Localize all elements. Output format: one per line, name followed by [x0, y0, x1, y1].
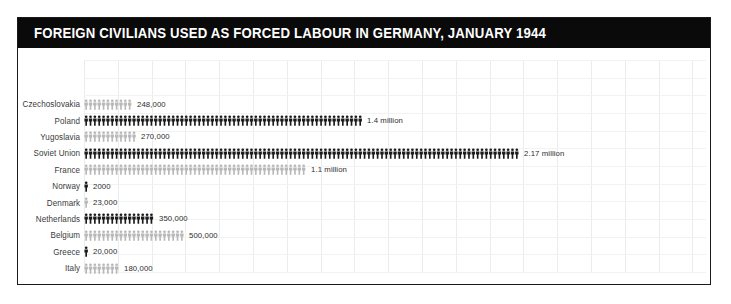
pictogram-bar	[84, 246, 88, 257]
pictogram-bar	[84, 197, 88, 208]
row-value-norway: 2000	[93, 182, 111, 191]
chart-row: Yugoslavia270,000	[18, 129, 710, 145]
row-label-belgium: Belgium	[21, 230, 84, 240]
bar-container: 2000	[84, 178, 710, 194]
chart-row: Netherlands350,000	[18, 211, 710, 227]
chart-row: Czechoslovakia248,000	[18, 96, 710, 112]
chart-plot-area: Czechoslovakia248,000Poland1.4 millionYu…	[18, 48, 710, 284]
pictogram-bar	[84, 181, 88, 192]
pictogram-bar	[84, 230, 184, 241]
gridline-horizontal	[84, 78, 706, 79]
row-value-yugoslavia: 270,000	[141, 132, 170, 141]
pictogram-bar	[84, 131, 136, 142]
chart-row: Poland1.4 million	[18, 112, 710, 128]
bar-container: 20,000	[84, 244, 710, 260]
chart-header: FOREIGN CIVILIANS USED AS FORCED LABOUR …	[18, 18, 710, 48]
chart-row: Soviet Union2.17 million	[18, 145, 710, 161]
row-value-netherlands: 350,000	[159, 214, 188, 223]
pictogram-bar	[84, 213, 154, 224]
bar-container: 23,000	[84, 194, 710, 210]
bar-container: 1.1 million	[84, 162, 710, 178]
chart-title: FOREIGN CIVILIANS USED AS FORCED LABOUR …	[34, 18, 546, 48]
row-label-greece: Greece	[21, 247, 84, 257]
row-value-soviet-union: 2.17 million	[524, 149, 564, 158]
row-value-belgium: 500,000	[189, 231, 218, 240]
gridline-horizontal	[84, 60, 706, 61]
row-label-italy: Italy	[21, 263, 84, 273]
row-value-czechoslovakia: 248,000	[137, 100, 166, 109]
chart-row: Denmark23,000	[18, 194, 710, 210]
row-label-norway: Norway	[21, 181, 84, 191]
row-label-france: France	[21, 165, 84, 175]
chart-frame: FOREIGN CIVILIANS USED AS FORCED LABOUR …	[17, 17, 711, 285]
row-value-denmark: 23,000	[93, 198, 117, 207]
pictogram-bar	[84, 99, 132, 110]
row-value-italy: 180,000	[124, 264, 153, 273]
row-label-poland: Poland	[21, 116, 84, 126]
pictogram-bar	[84, 164, 306, 175]
bar-container: 2.17 million	[84, 145, 710, 161]
row-value-greece: 20,000	[93, 247, 117, 256]
row-value-poland: 1.4 million	[367, 116, 403, 125]
bar-container: 248,000	[84, 96, 710, 112]
row-value-france: 1.1 million	[311, 165, 347, 174]
bar-container: 180,000	[84, 260, 710, 276]
bar-container: 1.4 million	[84, 112, 710, 128]
row-label-netherlands: Netherlands	[21, 214, 84, 224]
row-label-denmark: Denmark	[21, 198, 84, 208]
bar-container: 270,000	[84, 129, 710, 145]
pictogram-bar	[84, 148, 519, 159]
bar-rows: Czechoslovakia248,000Poland1.4 millionYu…	[18, 96, 710, 276]
row-label-czechoslovakia: Czechoslovakia	[21, 99, 84, 109]
chart-row: France1.1 million	[18, 162, 710, 178]
pictogram-bar	[84, 263, 119, 274]
chart-row: Italy180,000	[18, 260, 710, 276]
chart-row: Norway2000	[18, 178, 710, 194]
bar-container: 350,000	[84, 211, 710, 227]
pictogram-bar	[84, 115, 362, 126]
row-label-soviet-union: Soviet Union	[21, 148, 84, 158]
chart-row: Belgium500,000	[18, 227, 710, 243]
chart-row: Greece20,000	[18, 244, 710, 260]
row-label-yugoslavia: Yugoslavia	[21, 132, 84, 142]
bar-container: 500,000	[84, 227, 710, 243]
